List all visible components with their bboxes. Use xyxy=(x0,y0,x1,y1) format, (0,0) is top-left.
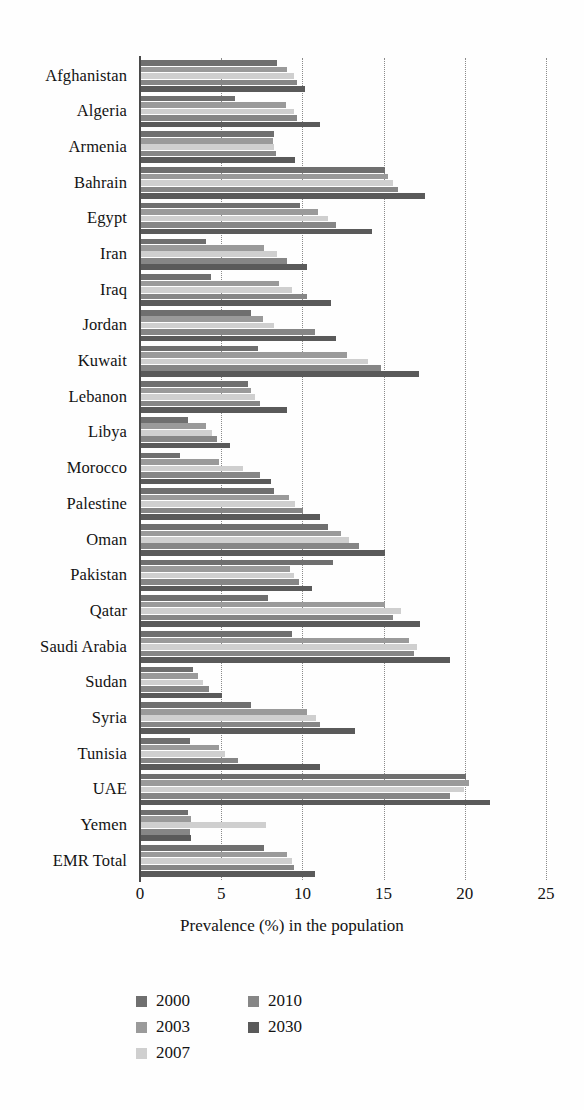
bar-2003 xyxy=(141,209,318,215)
chart-row: Algeria xyxy=(0,94,584,130)
category-label: Saudi Arabia xyxy=(0,629,133,665)
bar-2007 xyxy=(141,644,417,650)
legend-swatch-icon xyxy=(136,1022,147,1033)
chart-row: EMR Total xyxy=(0,843,584,879)
bar-2003 xyxy=(141,780,469,786)
bar-group xyxy=(141,379,584,415)
y-axis-line xyxy=(139,56,141,882)
chart-row: Pakistan xyxy=(0,558,584,594)
category-label: Iraq xyxy=(0,272,133,308)
category-label: Morocco xyxy=(0,451,133,487)
bar-2000 xyxy=(141,346,258,352)
chart-row: Syria xyxy=(0,700,584,736)
bar-2030 xyxy=(141,336,336,342)
bar-2003 xyxy=(141,316,263,322)
bar-2003 xyxy=(141,602,385,608)
bar-2000 xyxy=(141,667,193,673)
bar-2000 xyxy=(141,381,248,387)
bar-2030 xyxy=(141,800,490,806)
chart-row: Saudi Arabia xyxy=(0,629,584,665)
bar-2007 xyxy=(141,466,243,472)
bar-2010 xyxy=(141,401,260,407)
x-axis-label: Prevalence (%) in the population xyxy=(0,916,584,936)
bar-2030 xyxy=(141,157,295,163)
bar-2000 xyxy=(141,845,264,851)
chart-row: Qatar xyxy=(0,593,584,629)
bar-2030 xyxy=(141,621,420,627)
bar-2000 xyxy=(141,453,180,459)
bar-2003 xyxy=(141,459,219,465)
bar-2003 xyxy=(141,673,198,679)
category-label: Sudan xyxy=(0,665,133,701)
bar-2007 xyxy=(141,109,294,115)
bar-2010 xyxy=(141,615,393,621)
bar-2000 xyxy=(141,239,206,245)
bar-2007 xyxy=(141,787,464,793)
bar-2007 xyxy=(141,251,277,257)
x-tick-label-25: 25 xyxy=(538,884,555,904)
bar-group xyxy=(141,308,584,344)
bar-2010 xyxy=(141,722,320,728)
x-tick-label-20: 20 xyxy=(456,884,473,904)
bar-2003 xyxy=(141,174,388,180)
bar-2003 xyxy=(141,745,219,751)
bar-group xyxy=(141,415,584,451)
category-label: Oman xyxy=(0,522,133,558)
bar-2030 xyxy=(141,264,307,270)
legend-label: 2007 xyxy=(156,1043,190,1063)
category-label: Yemen xyxy=(0,807,133,843)
chart-row: Iran xyxy=(0,236,584,272)
category-label: UAE xyxy=(0,772,133,808)
bar-2003 xyxy=(141,816,191,822)
chart-row: Armenia xyxy=(0,129,584,165)
bar-2007 xyxy=(141,430,212,436)
bar-2010 xyxy=(141,329,315,335)
bar-2007 xyxy=(141,180,393,186)
category-label: Lebanon xyxy=(0,379,133,415)
bar-2010 xyxy=(141,365,381,371)
bar-2007 xyxy=(141,73,294,79)
bar-group xyxy=(141,558,584,594)
bar-2010 xyxy=(141,508,303,514)
legend-label: 2003 xyxy=(156,1017,190,1037)
bar-2010 xyxy=(141,865,294,871)
bar-group xyxy=(141,593,584,629)
x-tick-label-15: 15 xyxy=(375,884,392,904)
bar-2003 xyxy=(141,138,273,144)
bar-2007 xyxy=(141,608,401,614)
bar-group xyxy=(141,700,584,736)
bar-group xyxy=(141,165,584,201)
bar-2030 xyxy=(141,407,287,413)
bar-2003 xyxy=(141,638,409,644)
bar-2010 xyxy=(141,758,238,764)
bar-2007 xyxy=(141,822,266,828)
category-label: Algeria xyxy=(0,94,133,130)
bar-2010 xyxy=(141,115,297,121)
chart-row: Jordan xyxy=(0,308,584,344)
bar-group xyxy=(141,772,584,808)
legend-label: 2030 xyxy=(268,1017,302,1037)
bar-2000 xyxy=(141,810,188,816)
chart-row: Iraq xyxy=(0,272,584,308)
chart-figure: AfghanistanAlgeriaArmeniaBahrainEgyptIra… xyxy=(0,0,584,1110)
bar-2030 xyxy=(141,371,419,377)
legend-swatch-icon xyxy=(248,996,259,1007)
bar-group xyxy=(141,344,584,380)
legend-swatch-icon xyxy=(136,1048,147,1059)
bar-2000 xyxy=(141,417,188,423)
category-label: Pakistan xyxy=(0,558,133,594)
bar-2010 xyxy=(141,436,217,442)
bar-2007 xyxy=(141,573,294,579)
bar-2007 xyxy=(141,751,225,757)
plot-area: AfghanistanAlgeriaArmeniaBahrainEgyptIra… xyxy=(0,0,584,1110)
bar-2000 xyxy=(141,738,190,744)
bar-2000 xyxy=(141,96,235,102)
chart-row: Afghanistan xyxy=(0,58,584,94)
bar-2003 xyxy=(141,852,287,858)
bar-2000 xyxy=(141,310,251,316)
bar-2030 xyxy=(141,835,191,841)
bar-2030 xyxy=(141,693,222,699)
x-tick-label-10: 10 xyxy=(294,884,311,904)
bar-group xyxy=(141,272,584,308)
bar-2000 xyxy=(141,560,333,566)
